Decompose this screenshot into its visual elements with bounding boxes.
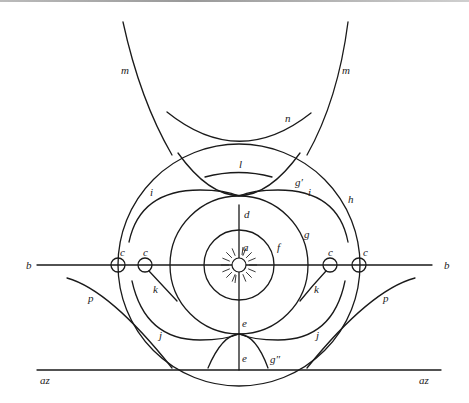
- label-c-inner-right: c: [328, 246, 333, 258]
- label-p-left: p: [87, 292, 94, 304]
- label-c-outer-right: c: [363, 246, 368, 258]
- label-b-left: b: [26, 259, 32, 271]
- label-j-left: j: [157, 329, 162, 341]
- label-k-left: k: [153, 283, 159, 295]
- orbital-diagram: m m n l g′ i i h d a f g b b c c c c k k…: [0, 0, 469, 403]
- curve-p-right: [307, 278, 415, 368]
- label-az-left: az: [40, 374, 51, 386]
- label-b-right: b: [444, 259, 450, 271]
- label-e-lower: e: [242, 352, 247, 364]
- label-l: l: [239, 158, 242, 170]
- label-e-upper: e: [242, 317, 247, 329]
- label-p-right: p: [382, 292, 389, 304]
- curve-l: [205, 173, 272, 178]
- label-m-left: m: [121, 64, 129, 76]
- label-d: d: [244, 208, 250, 220]
- label-a: a: [243, 241, 249, 253]
- label-h: h: [348, 193, 354, 205]
- label-i-right: i: [308, 186, 311, 198]
- label-f: f: [277, 241, 282, 253]
- label-g-double-prime: g″: [270, 353, 281, 365]
- label-c-outer-left: c: [120, 246, 125, 258]
- label-k-right: k: [314, 283, 320, 295]
- label-az-right: az: [419, 374, 430, 386]
- curve-k-right: [300, 271, 326, 301]
- label-m-right: m: [342, 64, 350, 76]
- label-i-left: i: [150, 186, 153, 198]
- curve-m-left: [123, 22, 172, 155]
- label-g-prime: g′: [295, 176, 304, 188]
- label-g: g: [304, 228, 310, 240]
- label-n: n: [285, 112, 291, 124]
- label-c-inner-left: c: [143, 246, 148, 258]
- curve-m-right: [307, 22, 348, 155]
